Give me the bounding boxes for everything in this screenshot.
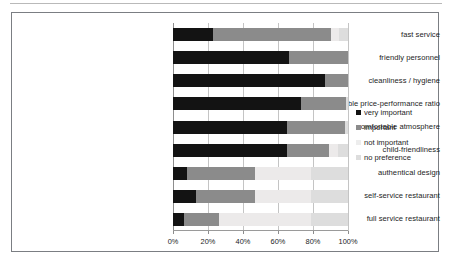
bar-segment-very-important: [173, 144, 287, 157]
bar-segment-no-preference: [339, 28, 348, 41]
x-tick-mark: [173, 231, 174, 234]
x-tick-label: 60%: [271, 237, 286, 246]
bar-row: [173, 213, 348, 226]
bar-segment-not-important: [329, 144, 338, 157]
chart-area: fast servicefriendly personnelcleanlines…: [12, 13, 440, 253]
x-tick-mark: [208, 231, 209, 234]
bar-segment-not-important: [219, 213, 312, 226]
chart-legend: very importantimportantnot importantno p…: [356, 105, 440, 165]
x-tick-mark: [278, 231, 279, 234]
legend-swatch-icon: [356, 155, 361, 160]
bar-segment-not-important: [255, 190, 311, 203]
bar-segment-important: [325, 74, 348, 87]
bar-segment-not-important: [255, 167, 311, 180]
bar-segment-not-important: [331, 28, 340, 41]
bar-row: [173, 28, 348, 41]
bar-segment-important: [287, 144, 329, 157]
legend-label: important: [364, 123, 396, 132]
page-top-rule: [10, 3, 442, 4]
bar-segment-important: [213, 28, 330, 41]
bar-row: [173, 190, 348, 203]
bar-row: [173, 97, 348, 110]
bar-segment-important: [187, 167, 255, 180]
bar-segment-very-important: [173, 74, 325, 87]
gridline-100: [348, 23, 349, 231]
bar-segment-very-important: [173, 28, 213, 41]
legend-swatch-icon: [356, 110, 361, 115]
x-tick-label: 40%: [236, 237, 251, 246]
bar-segment-no-preference: [346, 97, 348, 110]
bar-row: [173, 121, 348, 134]
bar-segment-important: [196, 190, 256, 203]
legend-item[interactable]: important: [356, 120, 440, 135]
plot-region: [173, 23, 348, 231]
bar-row: [173, 144, 348, 157]
bar-segment-important: [301, 97, 347, 110]
legend-item[interactable]: not important: [356, 135, 440, 150]
x-tick-label: 0%: [168, 237, 179, 246]
bar-row: [173, 51, 348, 64]
bar-row: [173, 74, 348, 87]
x-tick-mark: [348, 231, 349, 234]
bar-segment-very-important: [173, 213, 184, 226]
legend-label: no preference: [364, 153, 411, 162]
x-tick-mark: [243, 231, 244, 234]
x-tick-label: 80%: [306, 237, 321, 246]
bar-segment-very-important: [173, 121, 287, 134]
legend-label: very important: [364, 108, 412, 117]
x-tick-label: 100%: [339, 237, 358, 246]
bar-segment-very-important: [173, 190, 196, 203]
x-tick-mark: [313, 231, 314, 234]
bar-segment-important: [289, 51, 349, 64]
legend-swatch-icon: [356, 140, 361, 145]
x-tick-label: 20%: [201, 237, 216, 246]
bar-segment-no-preference: [311, 190, 348, 203]
bar-segment-very-important: [173, 167, 187, 180]
bar-row: [173, 167, 348, 180]
bar-segment-no-preference: [311, 213, 348, 226]
chart-figure-frame: fast servicefriendly personnelcleanlines…: [11, 12, 439, 252]
legend-item[interactable]: very important: [356, 105, 440, 120]
plot-baseline: [173, 230, 348, 231]
legend-item[interactable]: no preference: [356, 150, 440, 165]
bar-segment-important: [287, 121, 345, 134]
legend-swatch-icon: [356, 125, 361, 130]
bar-segment-important: [184, 213, 219, 226]
bar-segment-no-preference: [311, 167, 348, 180]
bar-segment-no-preference: [338, 144, 349, 157]
legend-label: not important: [364, 138, 408, 147]
bar-segment-very-important: [173, 97, 301, 110]
bar-segment-no-preference: [345, 121, 349, 134]
bar-segment-very-important: [173, 51, 289, 64]
